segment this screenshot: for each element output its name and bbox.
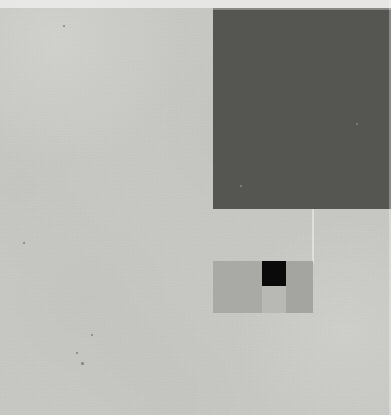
panel-left-shape <box>213 261 262 313</box>
speck-e <box>81 362 84 365</box>
speck-b <box>23 242 25 244</box>
dark-block-shape <box>213 8 391 209</box>
panel-bottom-shape <box>262 286 286 313</box>
rectangle-cluster <box>213 261 313 313</box>
vertical-seam-connector <box>312 209 314 263</box>
composition-canvas <box>0 0 391 415</box>
panel-right-shape <box>286 261 313 313</box>
top-edge-highlight <box>0 0 391 8</box>
speck-c <box>91 334 93 336</box>
speck-g <box>356 123 358 125</box>
speck-a <box>63 25 65 27</box>
speck-d <box>76 352 78 354</box>
speck-f <box>240 185 242 187</box>
black-square-shape <box>262 261 286 286</box>
